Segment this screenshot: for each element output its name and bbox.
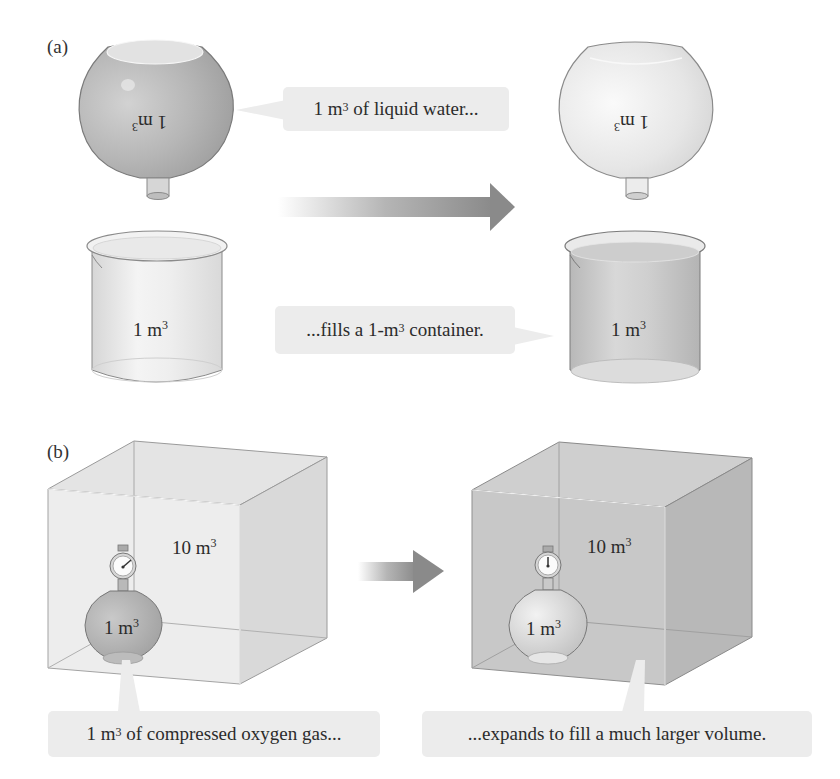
volume-text: 1 m <box>138 112 167 133</box>
callout-exponent: 3 <box>116 725 122 740</box>
beaker-empty-volume-label: 1 m3 <box>133 318 168 341</box>
volume-exponent: 3 <box>162 318 168 332</box>
callout-expands: ...expands to fill a much larger volume. <box>422 711 812 757</box>
callout-text: ...fills a 1-m <box>306 319 398 341</box>
volume-exponent: 3 <box>640 318 646 332</box>
callout-exponent: 3 <box>343 100 349 115</box>
callout-compressed-oxygen: 1 m3 of compressed oxygen gas... <box>48 711 380 757</box>
right-arrow-icon-b <box>358 550 444 593</box>
callout-text: container. <box>405 319 484 341</box>
callout-text: 1 m <box>314 98 343 120</box>
volume-exponent: 3 <box>614 120 620 134</box>
volume-text: 1 m <box>620 112 649 133</box>
gas-flask-empty-label: 1 m3 <box>526 617 561 640</box>
volume-exponent: 3 <box>132 120 138 134</box>
volume-text: 1 m <box>104 617 133 638</box>
beaker-empty-icon <box>87 231 227 382</box>
callout-text: 1 m <box>86 723 115 745</box>
volume-exponent: 3 <box>211 536 217 550</box>
volume-text: 10 m <box>587 536 626 557</box>
flask-filled-volume-label: 1 m3 <box>132 111 167 134</box>
volume-text: 10 m <box>172 537 211 558</box>
beaker-filled-icon <box>565 231 705 383</box>
flask-empty-volume-label: 1 m3 <box>614 111 649 134</box>
box-empty-volume-label: 10 m3 <box>172 536 217 559</box>
callout-fills-container: ...fills a 1-m3 container. <box>275 306 515 354</box>
callout-liquid-water: 1 m3 of liquid water... <box>283 87 509 131</box>
box-filled-icon <box>472 442 752 685</box>
right-arrow-icon <box>278 183 515 231</box>
volume-text: 1 m <box>611 319 640 340</box>
volume-text: 1 m <box>133 319 162 340</box>
callout-pointer-top <box>236 100 286 120</box>
callout-text: of liquid water... <box>349 98 479 120</box>
box-filled-volume-label: 10 m3 <box>587 535 632 558</box>
volume-exponent: 3 <box>133 616 139 630</box>
callout-pointer-bottom <box>513 327 554 345</box>
callout-text: of compressed oxygen gas... <box>122 723 342 745</box>
callout-exponent: 3 <box>399 321 405 336</box>
volume-exponent: 3 <box>555 617 561 631</box>
volume-text: 1 m <box>526 618 555 639</box>
volume-exponent: 3 <box>626 535 632 549</box>
callout-text: ...expands to fill a much larger volume. <box>468 723 766 745</box>
gas-flask-compressed-label: 1 m3 <box>104 616 139 639</box>
box-empty-icon <box>48 441 327 684</box>
beaker-filled-volume-label: 1 m3 <box>611 318 646 341</box>
